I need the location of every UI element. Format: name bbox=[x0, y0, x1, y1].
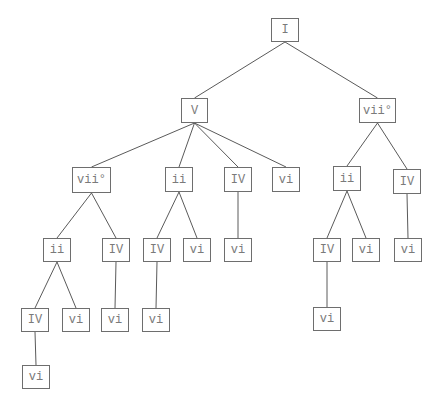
tree-node: vi bbox=[224, 238, 252, 262]
tree-edge bbox=[92, 123, 195, 167]
tree-edge bbox=[378, 123, 408, 169]
tree-node: vii° bbox=[359, 98, 396, 123]
tree-node: I bbox=[271, 18, 299, 42]
tree-edge bbox=[157, 192, 179, 238]
tree-edge bbox=[92, 193, 117, 238]
tree-node: vi bbox=[22, 365, 50, 389]
tree-edge bbox=[115, 262, 116, 308]
tree-node: IV bbox=[393, 169, 421, 194]
tree-node: V bbox=[181, 98, 208, 123]
tree-node: vi bbox=[101, 308, 129, 332]
tree-edge bbox=[35, 332, 36, 365]
tree-node: vi bbox=[183, 238, 211, 262]
tree-node: ii bbox=[165, 167, 193, 192]
tree-node: vi bbox=[394, 238, 422, 262]
tree-edge bbox=[347, 191, 366, 238]
tree-node: vi bbox=[62, 308, 90, 332]
tree-edges bbox=[0, 0, 442, 405]
tree-edge bbox=[195, 123, 287, 167]
tree-edge bbox=[57, 262, 76, 308]
chord-progression-tree: IVvii°vii°iiIVviiiIViiIVIVviviIVviviIVvi… bbox=[0, 0, 442, 405]
tree-node: IV bbox=[313, 238, 341, 262]
tree-edge bbox=[327, 191, 347, 238]
tree-node: vi bbox=[272, 167, 300, 192]
tree-edge bbox=[156, 262, 157, 308]
tree-edge bbox=[285, 42, 378, 98]
tree-node: vi bbox=[352, 238, 380, 262]
tree-edge bbox=[35, 262, 57, 308]
tree-edge bbox=[407, 194, 408, 238]
tree-node: ii bbox=[43, 238, 71, 262]
tree-node: IV bbox=[224, 167, 252, 192]
tree-edge bbox=[347, 123, 378, 166]
tree-edge bbox=[179, 192, 197, 238]
tree-node: vii° bbox=[72, 167, 111, 193]
tree-node: IV bbox=[21, 308, 49, 332]
tree-edge bbox=[57, 193, 92, 238]
tree-node: IV bbox=[143, 238, 171, 262]
tree-edge bbox=[195, 123, 239, 167]
tree-node: vi bbox=[313, 307, 341, 331]
tree-node: vi bbox=[142, 308, 170, 332]
tree-node: ii bbox=[333, 166, 361, 191]
tree-node: IV bbox=[102, 238, 130, 262]
tree-edge bbox=[179, 123, 195, 167]
tree-edge bbox=[195, 42, 286, 98]
